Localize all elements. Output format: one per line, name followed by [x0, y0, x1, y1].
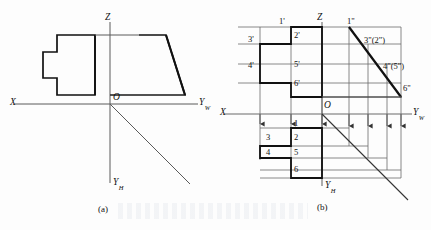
panel-a: X Z O YW YH (a): [0, 0, 216, 230]
panel-a-drawing: [0, 0, 216, 230]
panel-a-yh-subscript: H: [119, 184, 124, 191]
panel-b-z-axis-label: Z: [317, 13, 322, 23]
top-label-3: 3: [266, 133, 270, 142]
side-view-slant-edge: [166, 35, 185, 95]
side-label-3-2-dprime: 3"(2"): [364, 36, 385, 45]
panel-b-yh-axis-label: YH: [325, 181, 335, 192]
panel-a-z-axis-label: Z: [105, 13, 110, 23]
panel-b-yw-subscript: W: [419, 114, 424, 121]
front-view-outline: [43, 35, 95, 95]
panel-b-yw-axis-label: YW: [413, 108, 424, 119]
figure-root: X Z O YW YH (a): [0, 0, 431, 230]
panel-b-yh-subscript: H: [331, 187, 336, 194]
front-label-3-prime: 3': [248, 35, 254, 44]
panel-b-x-axis-label: X: [220, 108, 226, 118]
front-label-6-prime: 6': [294, 79, 300, 88]
panel-a-yw-letter: Y: [199, 97, 204, 107]
front-label-5-prime: 5': [294, 60, 300, 69]
panel-b-yh-letter: Y: [325, 180, 330, 190]
panel-a-yw-subscript: W: [205, 104, 210, 111]
front-label-4-prime: 4': [248, 61, 254, 70]
panel-b-caption: (b): [317, 202, 328, 212]
side-label-1-dprime: 1": [347, 17, 355, 26]
panel-b-axes: [224, 22, 412, 186]
panel-b-construction-lines: [238, 27, 401, 178]
panel-b-origin-label: O: [324, 101, 331, 111]
top-label-1: 1: [294, 119, 298, 128]
panel-a-x-axis-label: X: [10, 98, 16, 108]
panel-b-yw-letter: Y: [413, 107, 418, 117]
side-label-4-5-dprime: 4"(5"): [383, 62, 404, 71]
top-label-2: 2: [294, 133, 298, 142]
top-label-5: 5: [294, 148, 298, 157]
top-label-6: 6: [294, 165, 298, 174]
panel-a-yh-axis-label: YH: [113, 178, 123, 189]
miter-line-45: [110, 104, 190, 184]
panel-a-origin-label: O: [113, 93, 120, 103]
side-label-6-dprime: 6": [403, 84, 411, 93]
front-label-2-prime: 2': [294, 31, 300, 40]
panel-a-yh-letter: Y: [113, 177, 118, 187]
top-label-4: 4: [266, 148, 270, 157]
side-view-outline: [110, 35, 185, 95]
panel-a-yw-axis-label: YW: [199, 98, 210, 109]
panel-b: X Z O YW YH 1' 2' 3' 4' 5' 6' 1" 3"(2") …: [216, 0, 431, 230]
panel-b-projection-arrows: [260, 114, 401, 126]
panel-a-caption: (a): [98, 204, 108, 214]
front-label-1-prime: 1': [279, 17, 285, 26]
